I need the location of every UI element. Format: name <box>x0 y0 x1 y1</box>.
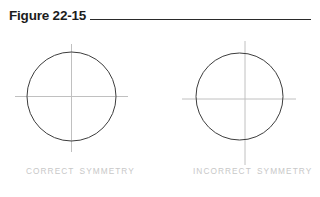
panel-incorrect-symmetry <box>182 41 296 165</box>
circle-incorrect <box>196 53 283 140</box>
caption-correct-symmetry: CORRECT SYMMETRY <box>26 166 135 176</box>
caption-incorrect-symmetry: INCORRECT SYMMETRY <box>193 166 312 176</box>
figure-page: Figure 22-15 CORRECT SYMMETRY INCORRECT … <box>0 0 320 197</box>
figure-title-rule <box>90 19 311 20</box>
panel-correct-symmetry <box>15 44 128 152</box>
figure-title: Figure 22-15 <box>9 9 86 23</box>
figure-header: Figure 22-15 <box>0 0 320 34</box>
